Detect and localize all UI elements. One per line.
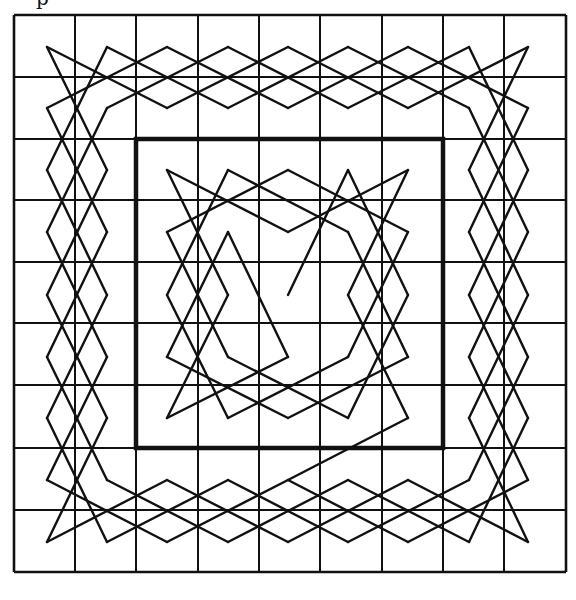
knights-tour-figure <box>0 0 576 600</box>
tour-move-segment <box>288 170 348 295</box>
tour-move-segment <box>288 357 408 418</box>
tour-path <box>47 47 528 542</box>
